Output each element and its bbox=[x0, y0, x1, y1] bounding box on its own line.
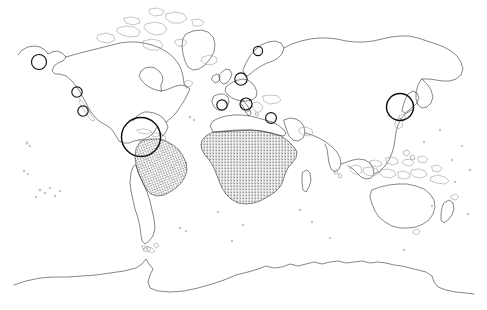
world-map-figure: AlaskaBaja California NorthBaja Californ… bbox=[0, 0, 487, 310]
landmass-indonesia bbox=[350, 150, 449, 184]
marker-japan[interactable]: Japan / Korea bbox=[387, 94, 414, 121]
world-map-svg: AlaskaBaja California NorthBaja Californ… bbox=[0, 0, 487, 310]
marker-baja-north[interactable]: Baja California North bbox=[72, 87, 82, 97]
landmass-north-america bbox=[18, 8, 217, 143]
landmass-australia bbox=[370, 184, 459, 235]
marker-north-sea[interactable]: North Sea / Denmark bbox=[235, 73, 247, 85]
marker-iberia[interactable]: Iberia / Gibraltar bbox=[217, 100, 227, 110]
landmass-europe bbox=[212, 41, 284, 116]
marker-alaska[interactable]: Alaska bbox=[32, 55, 47, 70]
landmass-antarctica bbox=[14, 243, 474, 294]
marker-baja-south[interactable]: Baja California South bbox=[78, 106, 88, 116]
landmass-asia bbox=[284, 36, 463, 179]
shaded-region-south-america bbox=[128, 134, 193, 202]
